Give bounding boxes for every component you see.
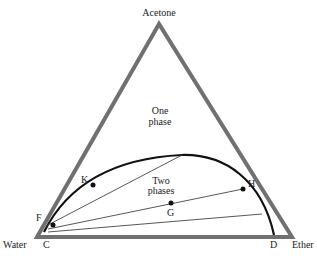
- point-label-h: H: [248, 178, 255, 189]
- point-label-f: F: [36, 212, 42, 223]
- region-label-one-2: phase: [149, 116, 172, 127]
- region-label-two-2: phases: [148, 185, 175, 196]
- diagram-canvas: Acetone Water Ether One phase Two phases…: [0, 0, 317, 268]
- tie-line-h: [48, 189, 243, 229]
- vertex-label-acetone: Acetone: [142, 7, 176, 18]
- point-g: [169, 201, 174, 206]
- vertex-label-ether: Ether: [292, 239, 314, 250]
- point-k: [91, 183, 96, 188]
- point-h: [241, 187, 246, 192]
- point-label-k: K: [81, 174, 89, 185]
- ternary-diagram: Acetone Water Ether One phase Two phases…: [0, 0, 317, 268]
- region-label-one-1: One: [152, 105, 169, 116]
- tie-line-lower: [48, 214, 262, 232]
- point-label-g: G: [167, 207, 174, 218]
- point-f-junction: [51, 223, 56, 228]
- point-label-d: D: [270, 239, 277, 250]
- point-label-c: C: [43, 239, 50, 250]
- vertex-label-water: Water: [3, 239, 27, 250]
